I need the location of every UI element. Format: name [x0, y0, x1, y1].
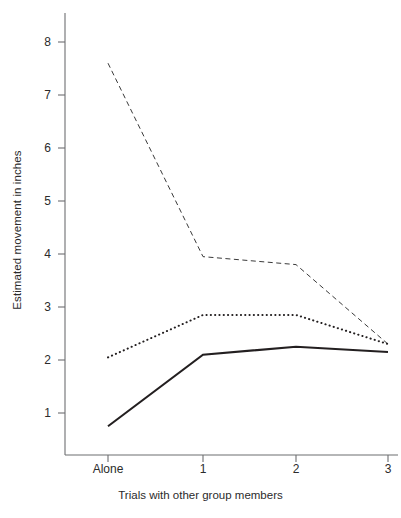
- x-tick-label: 2: [293, 462, 300, 476]
- y-tick-label: 4: [29, 247, 51, 261]
- y-tick-label: 7: [29, 88, 51, 102]
- y-tick-label: 8: [29, 35, 51, 49]
- x-tick-label: Alone: [93, 462, 124, 476]
- y-tick-label: 5: [29, 194, 51, 208]
- chart-plot-area: [0, 0, 401, 518]
- x-axis-label: Trials with other group members: [0, 489, 401, 501]
- y-tick-label: 1: [29, 406, 51, 420]
- chart-container: Estimated movement in inches 12345678 Al…: [0, 0, 401, 518]
- data-series-dashed: [108, 63, 388, 344]
- axes-group: [58, 13, 398, 462]
- y-tick-label: 6: [29, 141, 51, 155]
- series-group: [108, 63, 388, 426]
- y-tick-label: 3: [29, 300, 51, 314]
- data-series-solid: [108, 347, 388, 427]
- x-tick-label: 3: [385, 462, 392, 476]
- y-tick-label: 2: [29, 353, 51, 367]
- x-tick-label: 1: [200, 462, 207, 476]
